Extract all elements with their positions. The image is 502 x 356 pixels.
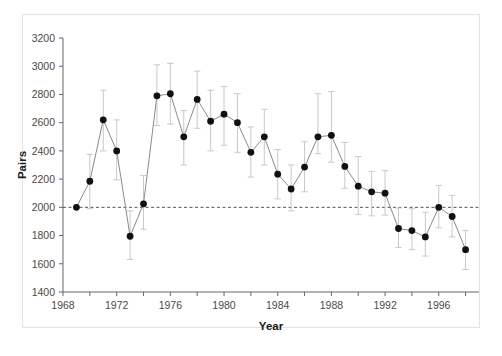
y-tick-label: 1800 [32,229,56,241]
data-point [462,246,469,253]
data-point [113,147,120,154]
data-point [355,183,362,190]
figure-container: 1400160018002000220024002600280030003200… [0,0,502,356]
y-axis-ticks [59,38,63,292]
y-tick-label: 3000 [32,60,56,72]
y-tick-label: 2200 [32,173,56,185]
x-tick-label: 1976 [159,299,183,311]
data-point [301,164,308,171]
y-tick-label: 2800 [32,88,56,100]
data-point [140,200,147,207]
data-point [341,163,348,170]
data-point [382,190,389,197]
x-axis-ticks [63,292,466,296]
data-point [449,213,456,220]
data-line [76,94,465,250]
data-point [395,225,402,232]
data-point [221,111,228,118]
x-tick-label: 1984 [266,299,290,311]
data-point [315,133,322,140]
data-point [180,133,187,140]
data-point [422,234,429,241]
data-point [409,227,416,234]
y-tick-label: 2600 [32,116,56,128]
data-point [247,149,254,156]
data-point [100,116,107,123]
data-point [234,119,241,126]
x-axis-tick-labels: 19681972197619801984198819921996 [51,299,450,311]
x-tick-label: 1968 [51,299,75,311]
y-tick-label: 2400 [32,145,56,157]
y-tick-label: 1600 [32,258,56,270]
x-tick-label: 1996 [427,299,451,311]
x-tick-label: 1988 [320,299,344,311]
data-point [194,96,201,103]
data-points [73,90,469,253]
y-axis-title: Pairs [16,151,28,179]
data-point [261,133,268,140]
data-point [73,204,80,211]
data-point [274,171,281,178]
x-tick-label: 1980 [212,299,236,311]
data-point [127,233,134,240]
y-tick-label: 1400 [32,286,56,298]
data-point [154,92,161,99]
error-bars [87,63,469,269]
y-axis-tick-labels: 1400160018002000220024002600280030003200 [32,32,56,298]
data-point [207,118,214,125]
x-tick-label: 1972 [105,299,129,311]
data-point [368,188,375,195]
y-tick-label: 3200 [32,32,56,44]
data-point [167,90,174,97]
chart-plot: 1400160018002000220024002600280030003200… [0,0,502,356]
data-point [435,204,442,211]
y-tick-label: 2000 [32,201,56,213]
x-tick-label: 1992 [373,299,397,311]
data-point [328,132,335,139]
data-point [288,186,295,193]
data-point [86,178,93,185]
x-axis-title: Year [259,320,284,332]
